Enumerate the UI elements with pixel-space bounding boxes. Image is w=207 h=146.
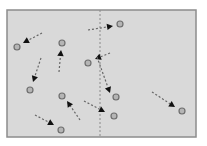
- vector-field-diagram: [0, 0, 207, 146]
- position-marker-circle-icon: [113, 94, 119, 100]
- position-marker-circle-icon: [179, 108, 185, 114]
- position-marker-circle-icon: [85, 60, 91, 66]
- position-marker-circle-icon: [59, 93, 65, 99]
- position-marker-circle-icon: [14, 44, 20, 50]
- position-marker-circle-icon: [117, 21, 123, 27]
- position-marker-circle-icon: [58, 127, 64, 133]
- position-marker-circle-icon: [59, 40, 65, 46]
- position-marker-circle-icon: [111, 113, 117, 119]
- position-marker-circle-icon: [27, 87, 33, 93]
